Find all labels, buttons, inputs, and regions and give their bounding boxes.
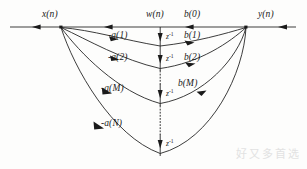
feedforward-label-b1: b(1) <box>184 31 200 41</box>
delay-label-3: z-1 <box>166 90 174 98</box>
delay-arrowhead-1 <box>158 33 163 42</box>
state-label: w(n) <box>146 10 164 20</box>
forward-arrowhead <box>104 25 113 30</box>
delay-arrowhead-3 <box>158 90 163 99</box>
delay-line-column <box>158 27 163 156</box>
signal-flow-diagram: x(n) w(n) b(0) y(n) -a(1) -a(2) -a(M) -a… <box>0 0 307 169</box>
output-arrowhead <box>278 25 287 30</box>
input-label: x(n) <box>42 10 58 20</box>
delay-arrowhead-4 <box>158 140 163 149</box>
main-signal-line <box>10 25 296 30</box>
input-arrowhead <box>32 25 41 30</box>
delay-arrowhead-2 <box>158 55 163 64</box>
scan-watermark: 好又多首选 <box>236 145 301 161</box>
output-label: y(n) <box>258 10 274 20</box>
feedforward-label-bM: b(M) <box>178 79 197 89</box>
delay-label-3-exp: -1 <box>169 88 174 94</box>
b0-arrowhead <box>185 25 194 30</box>
delay-label-1-exp: -1 <box>169 31 174 37</box>
feedforward-label-b2: b(2) <box>184 53 200 63</box>
delay-label-2-exp: -1 <box>169 53 174 59</box>
feedforward-arrowhead-bM <box>197 91 207 97</box>
flow-graph-canvas <box>0 0 307 169</box>
feedback-label-a2: -a(2) <box>108 53 128 63</box>
feedback-label-a1: -a(1) <box>108 31 128 41</box>
feedforward-arrowhead-b2 <box>185 63 195 68</box>
b0-label: b(0) <box>184 10 200 20</box>
delay-label-1: z-1 <box>166 33 174 41</box>
delay-label-2: z-1 <box>166 55 174 63</box>
delay-label-4: z-1 <box>166 140 174 148</box>
feedback-label-aN: -a(N) <box>101 119 122 129</box>
feedback-label-aM: -a(M) <box>101 84 124 94</box>
delay-label-4-exp: -1 <box>169 138 174 144</box>
